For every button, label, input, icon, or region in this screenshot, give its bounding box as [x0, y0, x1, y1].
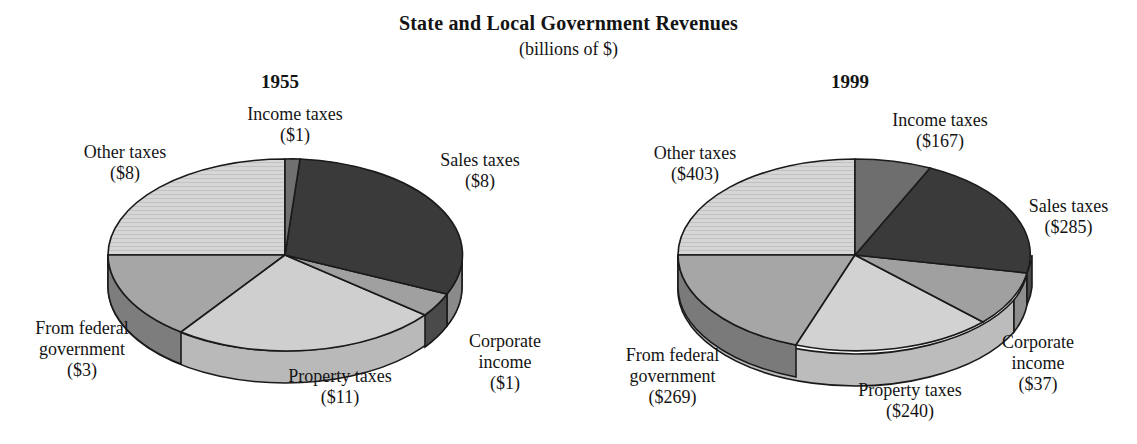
- label-value: ($8): [405, 171, 555, 192]
- label-text: From federal: [2, 318, 162, 339]
- label-1955-from-federal-government: From federal government ($3): [2, 318, 162, 381]
- label-text-2: income: [978, 353, 1098, 374]
- label-value: ($3): [2, 360, 162, 381]
- label-text: From federal: [580, 345, 765, 366]
- label-text: Other taxes: [50, 142, 200, 163]
- label-text: Sales taxes: [1000, 196, 1137, 217]
- label-value: ($8): [50, 163, 200, 184]
- label-text: Income taxes: [845, 110, 1035, 131]
- label-1955-corporate-income: Corporate income ($1): [440, 331, 570, 394]
- label-text-2: income: [440, 352, 570, 373]
- page-subtitle: (billions of $): [0, 39, 1137, 60]
- label-value: ($240): [820, 401, 1000, 422]
- label-value: ($403): [620, 164, 770, 185]
- label-text: Property taxes: [250, 366, 430, 387]
- label-1999-sales-taxes: Sales taxes ($285): [1000, 196, 1137, 238]
- label-value: ($1): [200, 125, 390, 146]
- label-1955-property-taxes: Property taxes ($11): [250, 366, 430, 408]
- label-1999-property-taxes: Property taxes ($240): [820, 380, 1000, 422]
- label-value: ($11): [250, 387, 430, 408]
- pie-1999-top: [678, 159, 1030, 351]
- label-text: Sales taxes: [405, 150, 555, 171]
- label-text-2: government: [580, 366, 765, 387]
- label-1955-income-taxes: Income taxes ($1): [200, 104, 390, 146]
- label-text: Corporate: [440, 331, 570, 352]
- label-1999-from-federal-government: From federal government ($269): [580, 345, 765, 408]
- label-text: Income taxes: [200, 104, 390, 125]
- label-text: Corporate: [978, 332, 1098, 353]
- label-text: Other taxes: [620, 143, 770, 164]
- label-text: Property taxes: [820, 380, 1000, 401]
- label-1999-other-taxes: Other taxes ($403): [620, 143, 770, 185]
- panel-title-1955: 1955: [200, 71, 360, 93]
- page-title: State and Local Government Revenues: [0, 12, 1137, 35]
- label-value: ($269): [580, 387, 765, 408]
- label-text-2: government: [2, 339, 162, 360]
- label-1955-other-taxes: Other taxes ($8): [50, 142, 200, 184]
- chart-figure: State and Local Government Revenues (bil…: [0, 0, 1137, 444]
- label-value: ($285): [1000, 217, 1137, 238]
- label-1999-income-taxes: Income taxes ($167): [845, 110, 1035, 152]
- label-value: ($1): [440, 373, 570, 394]
- label-value: ($167): [845, 131, 1035, 152]
- label-1955-sales-taxes: Sales taxes ($8): [405, 150, 555, 192]
- panel-title-1999: 1999: [770, 71, 930, 93]
